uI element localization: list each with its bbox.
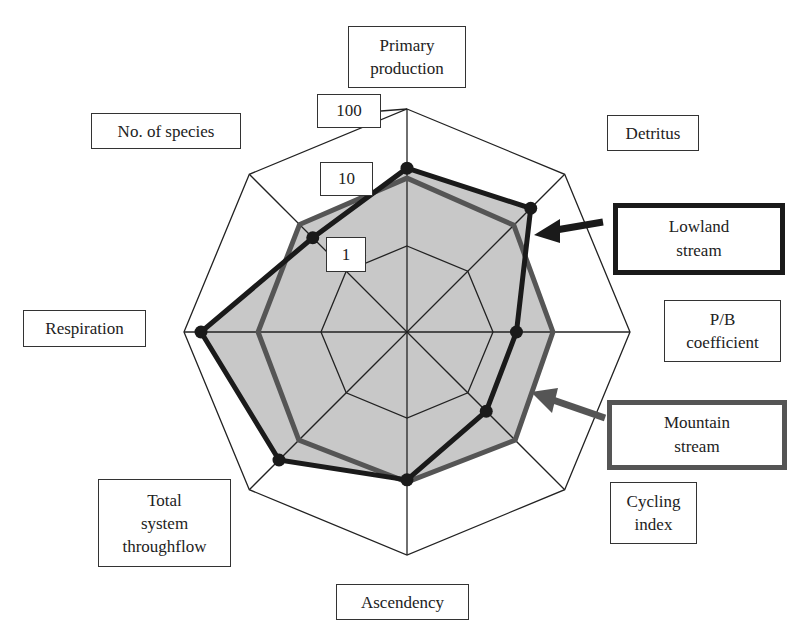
data-point-marker xyxy=(510,326,523,339)
axis-label-primary-production: Primary production xyxy=(348,26,466,88)
data-point-marker xyxy=(401,162,414,175)
lowland-arrow-shaft xyxy=(556,222,603,230)
mountain-arrow-head xyxy=(531,388,558,413)
lowland-arrow-head xyxy=(534,219,560,243)
legend-lowland-stream: Lowland stream xyxy=(613,203,785,275)
axis-label-pb-coefficient: P/B coefficient xyxy=(664,300,781,362)
data-point-marker xyxy=(480,405,493,418)
axis-label-detritus: Detritus xyxy=(607,115,699,151)
data-point-marker xyxy=(401,473,414,486)
series-fill xyxy=(201,168,553,482)
data-point-marker xyxy=(272,454,285,467)
tick-label-100: 100 xyxy=(317,94,381,128)
tick-label-1: 1 xyxy=(326,237,366,272)
axis-label-cycling-index: Cycling index xyxy=(610,482,697,544)
legend-mountain-stream: Mountain stream xyxy=(607,400,787,470)
axis-label-ascendency: Ascendency xyxy=(336,584,469,620)
mountain-arrow-shaft xyxy=(553,400,605,418)
axis-label-no-of-species: No. of species xyxy=(91,113,241,149)
data-point-marker xyxy=(306,231,319,244)
data-point-marker xyxy=(524,202,537,215)
axis-label-total-system-throughflow: Total system throughflow xyxy=(98,479,231,567)
data-point-marker xyxy=(194,326,207,339)
tick-label-10: 10 xyxy=(320,162,373,196)
axis-label-respiration: Respiration xyxy=(23,310,146,347)
